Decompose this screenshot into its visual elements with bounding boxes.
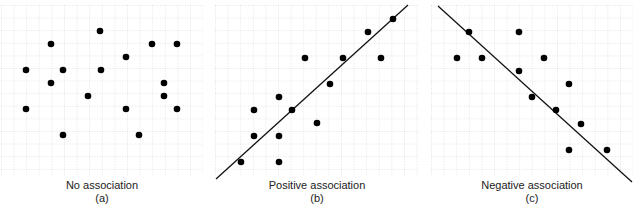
panel-title: No association bbox=[0, 179, 204, 192]
panel-letter: (b) bbox=[215, 192, 419, 205]
panel-a: No association (a) bbox=[0, 0, 204, 210]
caption-b: Positive association (b) bbox=[215, 179, 419, 205]
panel-title: Positive association bbox=[215, 179, 419, 192]
panel-title: Negative association bbox=[431, 179, 633, 192]
panel-b: Positive association (b) bbox=[215, 0, 419, 210]
caption-c: Negative association (c) bbox=[431, 179, 633, 205]
panel-c: Negative association (c) bbox=[431, 0, 633, 210]
caption-a: No association (a) bbox=[0, 179, 204, 205]
panel-letter: (c) bbox=[431, 192, 633, 205]
panel-letter: (a) bbox=[0, 192, 204, 205]
